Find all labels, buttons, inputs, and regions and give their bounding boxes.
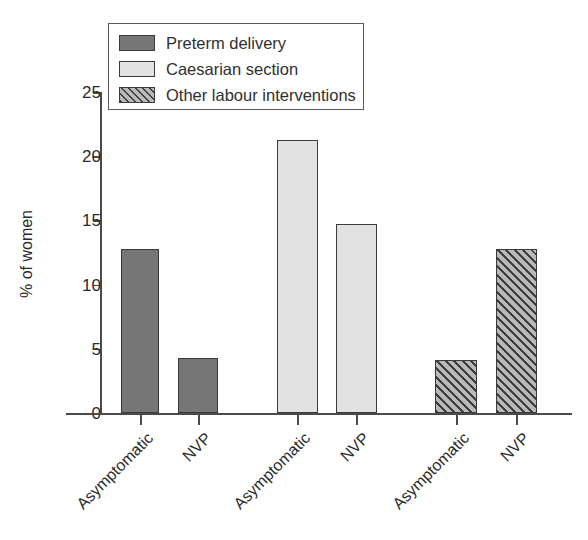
y-tick-label-25: 25 xyxy=(67,84,101,101)
chart-legend: Preterm delivery Caesarian section Other… xyxy=(108,23,364,110)
y-axis-line xyxy=(100,92,102,414)
legend-item-preterm-delivery: Preterm delivery xyxy=(119,30,355,56)
legend-item-caesarian-section: Caesarian section xyxy=(119,56,355,82)
bar-preterm-delivery-asymptomatic xyxy=(121,249,159,413)
x-tick-2 xyxy=(198,414,200,425)
x-tick-4 xyxy=(356,414,358,425)
legend-label-caesarian-section: Caesarian section xyxy=(166,61,298,78)
x-tick-5 xyxy=(456,414,458,425)
bar-caesarian-section-nvp xyxy=(336,224,377,413)
bar-other-labour-interventions-asymptomatic xyxy=(435,360,477,413)
legend-item-other-labour-interventions: Other labour interventions xyxy=(119,82,355,108)
legend-swatch-icon-preterm-delivery xyxy=(119,35,155,51)
bar-other-labour-interventions-nvp xyxy=(496,249,537,413)
x-axis-line xyxy=(66,413,572,415)
x-tick-6 xyxy=(516,414,518,425)
legend-swatch-icon-other-labour-interventions xyxy=(119,87,155,103)
y-tick-label-20: 20 xyxy=(67,148,101,165)
y-axis-title: % of women xyxy=(18,189,36,319)
bar-preterm-delivery-nvp xyxy=(178,358,218,413)
y-tick-label-10: 10 xyxy=(67,277,101,294)
y-tick-label-15: 15 xyxy=(67,212,101,229)
x-tick-3 xyxy=(297,414,299,425)
x-tick-1 xyxy=(140,414,142,425)
legend-label-other-labour-interventions: Other labour interventions xyxy=(166,87,356,104)
bar-caesarian-section-asymptomatic xyxy=(277,140,318,414)
legend-swatch-icon-caesarian-section xyxy=(119,61,155,77)
bar-chart: Preterm delivery Caesarian section Other… xyxy=(0,0,588,540)
x-axis-label-1: Asymptomatic xyxy=(0,430,156,540)
y-tick-label-5: 5 xyxy=(67,341,101,358)
legend-label-preterm-delivery: Preterm delivery xyxy=(166,35,286,52)
